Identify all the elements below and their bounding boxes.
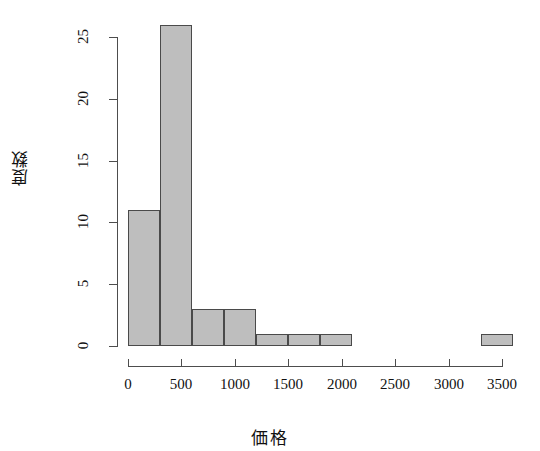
x-axis-tick xyxy=(502,359,503,367)
x-axis-tick xyxy=(288,359,289,367)
plot-area: 0510152025 0500100015002000250030003500 … xyxy=(0,0,540,451)
y-axis-tick-label: 20 xyxy=(75,79,92,119)
x-axis-title: 価格 xyxy=(0,424,540,449)
histogram-bar xyxy=(128,210,160,346)
y-axis-tick xyxy=(109,99,117,100)
y-axis-tick-label: 25 xyxy=(75,17,92,57)
histogram-bar xyxy=(256,334,288,346)
x-axis-tick xyxy=(342,359,343,367)
x-axis-tick-label: 3500 xyxy=(472,376,532,393)
y-axis-tick-label: 0 xyxy=(75,326,92,366)
x-axis-tick-label: 2000 xyxy=(312,376,372,393)
x-axis-tick-label: 1000 xyxy=(205,376,265,393)
y-axis-tick xyxy=(109,37,117,38)
y-axis-tick-label: 5 xyxy=(75,264,92,304)
y-axis-tick xyxy=(109,284,117,285)
y-axis-tick xyxy=(109,161,117,162)
x-axis-tick-label: 0 xyxy=(98,376,158,393)
x-axis-tick xyxy=(181,359,182,367)
x-axis-tick-label: 3000 xyxy=(419,376,479,393)
y-axis-title: 度数 xyxy=(8,150,50,186)
histogram-bar xyxy=(288,334,320,346)
x-axis-tick xyxy=(235,359,236,367)
x-axis-tick-label: 2500 xyxy=(365,376,425,393)
histogram-bar xyxy=(192,309,224,346)
x-axis-tick xyxy=(449,359,450,367)
y-axis-line xyxy=(117,37,118,347)
x-axis-tick xyxy=(395,359,396,367)
y-axis-tick xyxy=(109,346,117,347)
x-axis-tick-label: 1500 xyxy=(258,376,318,393)
y-axis-tick-label: 15 xyxy=(75,141,92,181)
x-axis-line xyxy=(128,366,503,367)
histogram-bar xyxy=(320,334,352,346)
y-axis-tick-label: 10 xyxy=(75,202,92,242)
histogram-bar xyxy=(160,25,192,346)
x-axis-tick xyxy=(128,359,129,367)
y-axis-tick xyxy=(109,222,117,223)
histogram-bar xyxy=(481,334,513,346)
histogram-bar xyxy=(224,309,256,346)
histogram-screenshot: 0510152025 0500100015002000250030003500 … xyxy=(0,0,540,451)
x-axis-tick-label: 500 xyxy=(151,376,211,393)
